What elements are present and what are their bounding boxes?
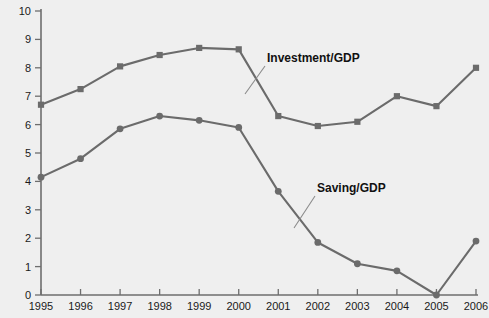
- data-point-marker: [77, 86, 83, 92]
- x-tick-label: 2004: [385, 300, 409, 312]
- data-point-marker: [157, 52, 163, 58]
- x-tick-label: 2000: [226, 300, 250, 312]
- data-point-marker: [236, 46, 242, 52]
- data-point-marker: [473, 238, 480, 245]
- data-point-marker: [275, 113, 281, 119]
- y-tick-label: 4: [25, 175, 31, 187]
- y-tick-label: 9: [25, 33, 31, 45]
- y-tick-label: 10: [19, 5, 31, 17]
- data-point-marker: [235, 124, 242, 131]
- plot-background: [0, 0, 489, 318]
- data-point-marker: [473, 65, 479, 71]
- x-tick-label: 2001: [266, 300, 290, 312]
- data-point-marker: [394, 93, 400, 99]
- x-tick-label: 1996: [68, 300, 92, 312]
- y-tick-label: 6: [25, 119, 31, 131]
- y-tick-label: 3: [25, 204, 31, 216]
- x-tick-label: 1995: [29, 300, 53, 312]
- y-tick-label: 8: [25, 62, 31, 74]
- y-tick-label: 5: [25, 147, 31, 159]
- data-point-marker: [196, 45, 202, 51]
- data-point-marker: [38, 174, 45, 181]
- y-tick-label: 2: [25, 232, 31, 244]
- data-point-marker: [354, 119, 360, 125]
- x-tick-label: 1999: [187, 300, 211, 312]
- data-point-marker: [117, 63, 123, 69]
- data-point-marker: [117, 125, 124, 132]
- data-point-marker: [315, 123, 321, 129]
- data-point-marker: [77, 155, 84, 162]
- chart-container: 012345678910 199519961997199819992000200…: [0, 0, 489, 318]
- data-point-marker: [38, 102, 44, 108]
- data-point-marker: [314, 239, 321, 246]
- x-tick-label: 2006: [464, 300, 488, 312]
- y-tick-label: 7: [25, 90, 31, 102]
- line-chart: 012345678910 199519961997199819992000200…: [0, 0, 489, 318]
- data-point-marker: [433, 292, 440, 299]
- y-tick-label: 1: [25, 261, 31, 273]
- data-point-marker: [394, 267, 401, 274]
- data-point-marker: [156, 113, 163, 120]
- data-point-marker: [433, 103, 439, 109]
- x-tick-label: 1998: [147, 300, 171, 312]
- data-point-marker: [354, 260, 361, 267]
- saving-series-label: Saving/GDP: [317, 181, 386, 195]
- data-point-marker: [275, 188, 282, 195]
- x-tick-label: 2003: [345, 300, 369, 312]
- x-tick-label: 2002: [306, 300, 330, 312]
- investment-series-label: Investment/GDP: [267, 51, 360, 65]
- x-tick-label: 1997: [108, 300, 132, 312]
- x-tick-label: 2005: [424, 300, 448, 312]
- data-point-marker: [196, 117, 203, 124]
